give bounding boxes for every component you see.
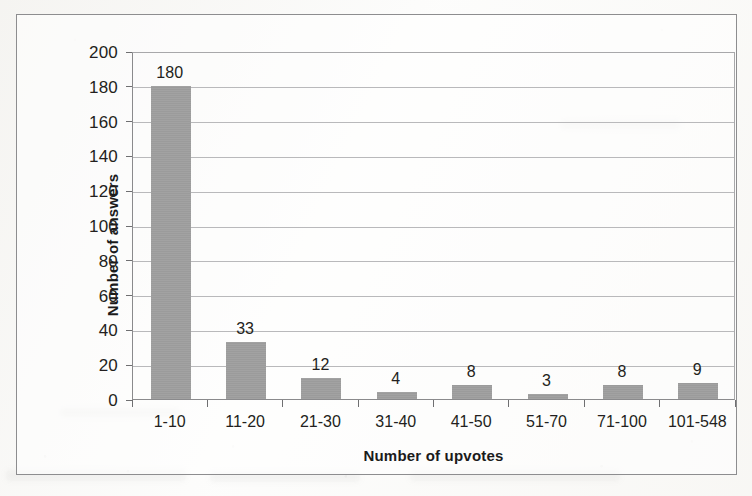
y-axis-tick-label: 60 (72, 288, 118, 305)
bar (301, 378, 341, 399)
bar (151, 86, 191, 399)
y-axis-tick-label: 0 (72, 392, 118, 409)
y-axis-tick-label: 120 (72, 183, 118, 200)
y-axis-tick-mark (126, 52, 132, 53)
gridline (133, 296, 734, 297)
y-axis-tick-label: 40 (72, 322, 118, 339)
scanned-page: Number of answers Number of upvotes 2001… (0, 0, 752, 496)
x-axis-tick-mark (282, 400, 283, 407)
gridline (133, 261, 734, 262)
y-axis-tick-mark (126, 226, 132, 227)
x-axis-tick-mark (584, 400, 585, 407)
bar (377, 392, 417, 399)
bar (678, 383, 718, 399)
x-axis-tick-label: 101-548 (652, 414, 742, 430)
plot-area (132, 52, 735, 400)
chart-frame: Number of answers Number of upvotes 2001… (16, 14, 737, 475)
gridline (133, 157, 734, 158)
bar-value-label: 8 (431, 364, 511, 380)
y-axis-tick-mark (126, 295, 132, 296)
gridline (133, 87, 734, 88)
y-axis-tick-label: 20 (72, 357, 118, 374)
x-axis-title: Number of upvotes (132, 447, 735, 464)
x-axis-tick-mark (358, 400, 359, 407)
bar-value-label: 33 (205, 321, 285, 337)
x-axis-tick-mark (508, 400, 509, 407)
y-axis-tick-label: 160 (72, 114, 118, 131)
bar (603, 385, 643, 399)
y-axis-tick-label: 140 (72, 148, 118, 165)
y-axis-tick-mark (126, 121, 132, 122)
bar-value-label: 4 (356, 371, 436, 387)
bar-value-label: 8 (582, 364, 662, 380)
y-axis-tick-mark (126, 191, 132, 192)
bar-value-label: 180 (130, 65, 210, 81)
gridline (133, 192, 734, 193)
y-axis-tick-mark (126, 260, 132, 261)
y-axis-tick-label: 80 (72, 253, 118, 270)
bar (226, 342, 266, 399)
x-axis-tick-mark (207, 400, 208, 407)
y-axis-tick-mark (126, 365, 132, 366)
y-axis-tick-label: 180 (72, 79, 118, 96)
bar-value-label: 9 (657, 362, 737, 378)
gridline (133, 227, 734, 228)
x-axis-tick-mark (433, 400, 434, 407)
gridline (133, 122, 734, 123)
x-axis-tick-mark (659, 400, 660, 407)
bar-value-label: 12 (280, 357, 360, 373)
y-axis-tick-mark (126, 86, 132, 87)
bar (528, 394, 568, 399)
x-axis-tick-mark (132, 400, 133, 407)
y-axis-tick-mark (126, 330, 132, 331)
bar-value-label: 3 (507, 373, 587, 389)
y-axis-tick-label: 100 (72, 218, 118, 235)
y-axis-tick-mark (126, 156, 132, 157)
bar (452, 385, 492, 399)
y-axis-tick-label: 200 (72, 44, 118, 61)
x-axis-tick-mark (735, 400, 736, 407)
